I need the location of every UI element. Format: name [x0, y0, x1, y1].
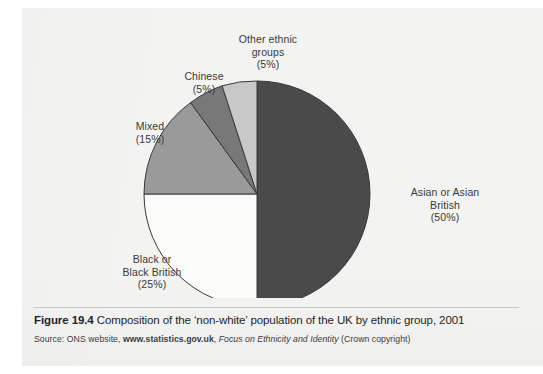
- pie-label-mixed: Mixed (15%): [112, 120, 188, 145]
- pie-label-black-or-black-british: Black or Black British (25%): [94, 253, 210, 291]
- figure-root: Other ethnic groups (5%) Chinese (5%) Mi…: [0, 0, 543, 374]
- caption-divider: [34, 307, 519, 308]
- source-publication: Focus on Ethnicity and Identity: [219, 334, 339, 344]
- pie-slice-asian-or-asian-british[interactable]: [257, 81, 370, 298]
- source-separator: ,: [214, 334, 216, 344]
- pie-label-other-ethnic-groups: Other ethnic groups (5%): [215, 33, 321, 71]
- pie-chart: Other ethnic groups (5%) Chinese (5%) Mi…: [22, 8, 543, 298]
- source-prefix: Source: ONS website,: [34, 334, 120, 344]
- caption-block: Figure 19.4 Composition of the ‘non-whit…: [34, 313, 526, 345]
- pie-label-chinese: Chinese (5%): [162, 70, 246, 95]
- figure-source: Source: ONS website, www.statistics.gov.…: [34, 333, 526, 345]
- figure-caption-text: Composition of the ‘non-white’ populatio…: [97, 314, 465, 326]
- figure-number: Figure 19.4: [34, 314, 94, 326]
- source-website-link[interactable]: www.statistics.gov.uk: [123, 334, 214, 344]
- pie-label-asian-or-asian-british: Asian or Asian British (50%): [392, 186, 498, 224]
- figure-caption: Figure 19.4 Composition of the ‘non-whit…: [34, 313, 526, 328]
- source-suffix: (Crown copyright): [341, 334, 410, 344]
